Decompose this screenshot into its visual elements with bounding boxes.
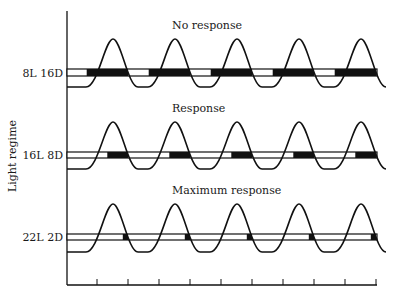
dark-segment	[293, 152, 314, 158]
rhythm-curve	[67, 204, 386, 252]
dark-segment	[231, 152, 252, 158]
y-axis-label: Light regime	[6, 120, 19, 192]
row-title: Response	[172, 102, 225, 115]
regime-row: No response8L 16D	[22, 19, 386, 87]
regime-row: Response16L 8D	[22, 102, 386, 169]
row-title: Maximum response	[172, 184, 281, 197]
regime-label: 22L 2D	[22, 231, 63, 244]
rhythm-curve	[67, 39, 386, 87]
regime-row: Maximum response22L 2D	[22, 184, 386, 252]
rhythm-curve	[67, 122, 386, 169]
regime-rows: No response8L 16DResponse16L 8DMaximum r…	[22, 19, 386, 252]
dark-segment	[87, 69, 128, 76]
dark-segment	[273, 69, 314, 76]
dark-segment	[335, 69, 376, 76]
photoperiod-diagram: Light regime No response8L 16DResponse16…	[0, 0, 393, 300]
regime-label: 8L 16D	[22, 67, 63, 80]
dark-segment	[211, 69, 252, 76]
dark-segment	[169, 152, 190, 158]
dark-segment	[355, 152, 376, 158]
row-title: No response	[172, 19, 242, 32]
dark-segment	[107, 152, 128, 158]
x-axis-ticks	[97, 279, 376, 285]
dark-segment	[149, 69, 190, 76]
regime-label: 16L 8D	[22, 149, 63, 162]
